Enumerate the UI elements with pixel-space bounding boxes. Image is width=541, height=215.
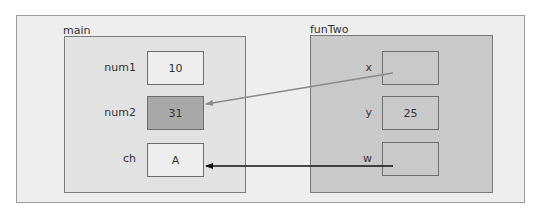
variable-cell-w	[382, 142, 439, 176]
variable-value-num1: 10	[169, 62, 183, 75]
variable-label-num2: num2	[96, 107, 136, 119]
frame-label-main: main	[63, 25, 90, 36]
variable-value-y: 25	[404, 107, 418, 120]
variable-cell-ch: A	[147, 143, 204, 177]
variable-cell-y: 25	[382, 96, 439, 130]
variable-cell-x	[382, 51, 439, 85]
variable-label-ch: ch	[96, 153, 136, 165]
variable-cell-num2: 31	[147, 96, 204, 130]
frame-label-funTwo: funTwo	[310, 24, 348, 35]
variable-label-w: w	[332, 153, 372, 165]
variable-value-num2: 31	[169, 107, 183, 120]
variable-value-ch: A	[172, 154, 180, 167]
variable-cell-num1: 10	[147, 51, 204, 85]
variable-label-y: y	[332, 107, 372, 119]
variable-label-x: x	[332, 62, 372, 74]
variable-label-num1: num1	[96, 62, 136, 74]
